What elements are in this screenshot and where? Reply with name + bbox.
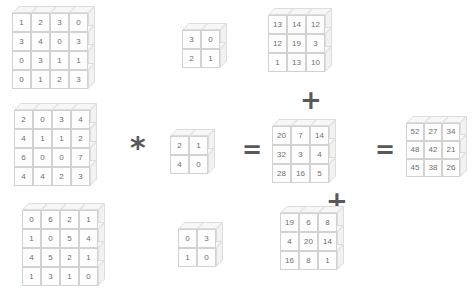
cell-value: 4 [38,38,42,46]
cube-front-face: 3 [291,145,310,164]
cell-value: 12 [273,40,282,48]
cube-front-face: 6 [41,210,60,229]
cell-value: 3 [76,76,80,84]
cube-front-face: 42 [424,141,442,159]
cell-value: 20 [277,132,286,140]
equals-operator-2: = [375,138,395,162]
convolve-operator: * [130,133,146,163]
kernel-2-matrix: 2140 [170,129,215,174]
cube-front-face: 26 [442,159,460,177]
cell-value: 32 [277,151,286,159]
cube-front-face: 1 [79,210,98,229]
cube-front-face: 4 [79,229,98,248]
plus-operator-1: + [300,87,322,113]
cell-value: 1 [57,57,61,65]
cube-front-face: 1 [31,70,50,89]
cell-value: 1 [59,135,63,143]
cell-value: 3 [78,173,82,181]
cell-value: 3 [57,19,61,27]
cell-value: 2 [78,135,82,143]
cube-front-face: 2 [170,136,189,155]
cube-grid: 1314121219311310 [268,8,332,72]
cube-front-face: 19 [287,34,306,53]
cell-value: 1 [19,19,23,27]
cell-value: 42 [429,146,438,154]
cell-value: 16 [285,257,294,265]
cell-value: 1 [29,273,33,281]
cell-value: 1 [76,57,80,65]
cube-front-face: 4 [71,110,90,129]
cell-value: 16 [296,170,305,178]
cube-front-face: 1 [201,49,220,68]
cell-value: 6 [48,216,52,224]
cell-value: 4 [21,135,25,143]
cube-front-face: 45 [406,159,424,177]
cube-front-face: 1 [22,267,41,286]
cell-value: 19 [285,219,294,227]
cell-value: 0 [86,273,90,281]
cube-front-face: 16 [280,251,299,270]
cell-value: 13 [292,59,301,67]
cube-grid: 0310 [178,222,223,267]
cube-front-face: 1 [268,53,287,72]
cell-value: 5 [317,170,321,178]
cube-front-face: 4 [33,167,52,186]
cube-front-face: 34 [442,123,460,141]
cell-value: 3 [59,116,63,124]
cell-value: 8 [325,219,329,227]
cell-value: 6 [21,154,25,162]
cell-value: 27 [429,128,438,136]
cube-front-face: 14 [318,232,337,251]
cube-front-face: 0 [33,110,52,129]
cell-value: 20 [304,238,313,246]
cube-front-face: 6 [299,213,318,232]
cube-front-face: 0 [197,248,216,267]
cell-value: 5 [48,254,52,262]
cube-front-face: 2 [71,129,90,148]
cube-front-face: 12 [268,34,287,53]
cell-value: 8 [306,257,310,265]
cell-value: 14 [292,21,301,29]
cube-front-face: 1 [22,229,41,248]
cell-value: 0 [57,38,61,46]
cell-value: 1 [196,142,200,150]
cube-front-face: 5 [41,248,60,267]
cube-front-face: 1 [79,248,98,267]
cell-value: 3 [76,38,80,46]
cube-front-face: 2 [50,70,69,89]
cube-front-face: 0 [22,210,41,229]
cube-front-face: 0 [52,148,71,167]
cell-value: 2 [189,55,193,63]
cell-value: 2 [59,173,63,181]
cell-value: 1 [185,254,189,262]
cube-grid: 3021 [182,23,227,68]
cell-value: 2 [177,142,181,150]
cell-value: 3 [38,57,42,65]
cell-value: 3 [48,273,52,281]
cube-front-face: 1 [12,13,31,32]
cube-front-face: 1 [50,51,69,70]
cell-value: 3 [204,235,208,243]
cell-value: 1 [67,273,71,281]
cube-front-face: 8 [318,213,337,232]
cube-front-face: 4 [22,248,41,267]
cube-front-face: 14 [287,15,306,34]
cell-value: 2 [67,254,71,262]
cube-front-face: 3 [69,70,88,89]
cube-front-face: 0 [12,51,31,70]
cube-front-face: 0 [178,229,197,248]
cell-value: 1 [86,254,90,262]
cell-value: 1 [86,216,90,224]
cube-front-face: 4 [14,167,33,186]
cube-front-face: 52 [406,123,424,141]
cell-value: 7 [298,132,302,140]
cube-front-face: 1 [178,248,197,267]
cell-value: 6 [306,219,310,227]
cell-value: 2 [38,19,42,27]
cube-front-face: 28 [272,164,291,183]
cell-value: 1 [208,55,212,63]
cube-front-face: 3 [71,167,90,186]
cell-value: 0 [196,161,200,169]
cube-grid: 1968420141681 [280,206,344,270]
cell-value: 5 [67,235,71,243]
